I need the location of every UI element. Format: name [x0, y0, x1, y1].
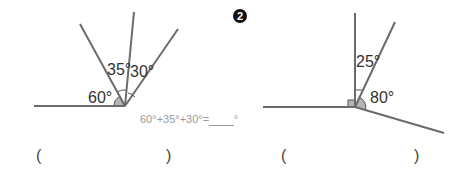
answer-1-open-paren: ( [36, 148, 41, 164]
answer-2-close-paren: ) [414, 148, 419, 164]
answer-1-close-paren: ) [166, 148, 171, 164]
formula-hint: 60°+35°+30°=____° [140, 114, 238, 125]
angle-label-30: 30° [130, 64, 154, 80]
ray-middle [125, 12, 134, 106]
angle-label-60: 60° [88, 90, 112, 106]
answer-2-open-paren: ( [281, 148, 286, 164]
problem-number-badge: 2 [233, 9, 247, 23]
right-angle-marker [348, 100, 355, 107]
answer-1-input[interactable] [44, 148, 164, 166]
ray-lower-right [355, 107, 444, 133]
answer-2-input[interactable] [290, 148, 410, 166]
figure-2 [263, 13, 444, 133]
formula-blank: ____ [209, 113, 233, 126]
angle-label-35: 35° [107, 62, 131, 78]
angle-label-80: 80° [370, 90, 394, 106]
angle-label-25: 25° [356, 54, 380, 70]
formula-text: 60°+35°+30°= [140, 113, 209, 125]
formula-unit: ° [234, 113, 238, 125]
